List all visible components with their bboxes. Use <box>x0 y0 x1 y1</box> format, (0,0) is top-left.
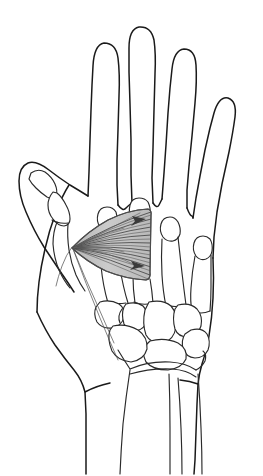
anatomy-figure <box>0 0 263 476</box>
fifth-metacarpal-shaft-medial <box>210 255 211 311</box>
adductor-pollicis-muscle <box>72 209 151 280</box>
third-metacarpal-shaft-medial <box>150 279 153 303</box>
radius-shaft-lateral <box>120 370 130 474</box>
forearm-bones <box>118 350 206 474</box>
radius-shaft-medial <box>169 374 170 474</box>
carpal-lunate <box>144 339 187 370</box>
thumb-proximal-phalanx <box>48 192 70 226</box>
web-space-middle-ring <box>153 199 162 207</box>
ulna-shaft-lateral <box>178 378 182 474</box>
ulna-shaft-medial <box>198 374 202 474</box>
fourth-metacarpal-shaft <box>162 239 167 306</box>
little-finger-outline <box>193 98 235 258</box>
index-finger-outline <box>88 43 119 205</box>
ring-finger-outline <box>162 49 196 208</box>
wrist-contour-right <box>180 380 198 384</box>
middle-finger-outline <box>129 27 155 203</box>
fifth-metacarpal-shaft <box>191 256 195 312</box>
hand-anatomy-illustration <box>0 0 263 476</box>
carpal-scaphoid <box>109 325 147 362</box>
carpal-capitate <box>144 301 177 343</box>
fifth-metacarpal <box>193 236 212 260</box>
web-space-ring-little <box>187 208 193 218</box>
fourth-metacarpal-shaft-medial <box>178 237 186 305</box>
carpal-bones <box>95 301 210 370</box>
radial-hand-border <box>37 312 86 474</box>
wrist-contour-left <box>85 383 110 392</box>
third-metacarpal-shaft <box>133 277 135 303</box>
fourth-metacarpal <box>160 217 180 241</box>
